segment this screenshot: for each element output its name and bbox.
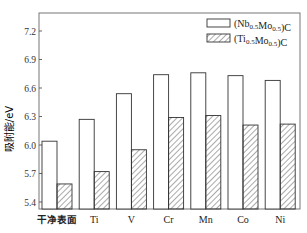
legend: (Nb0.5Mo0.5)C(Ti0.5Mo0.5)C [207, 18, 291, 49]
bar-nb-0 [42, 141, 57, 209]
bar-ti-1 [94, 172, 109, 209]
bar-ti-4 [206, 116, 221, 209]
x-category-label: Ti [90, 214, 99, 225]
y-tick-label: 6.6 [24, 84, 36, 94]
x-category-label: V [128, 214, 136, 225]
y-axis-label: 吸附能/eV [3, 106, 15, 153]
x-category-label: Cr [164, 214, 175, 225]
y-axis-title: 吸附能/eV [3, 106, 15, 153]
bar-nb-3 [154, 75, 169, 209]
x-category-label: 干净表面 [37, 214, 77, 225]
bar-nb-1 [79, 119, 94, 209]
bar-ti-0 [57, 184, 72, 209]
x-category-label: Mn [199, 214, 213, 225]
adsorption-energy-bar-chart: 5.45.76.06.36.66.97.2 干净表面TiVCrMnCoNi 吸附… [0, 0, 307, 233]
legend-swatch [207, 34, 230, 42]
legend-label: (Ti0.5Mo0.5)C [234, 33, 288, 49]
x-category-label: Ni [275, 214, 285, 225]
bar-nb-5 [228, 76, 243, 209]
y-tick-label: 5.7 [24, 169, 36, 179]
y-tick-label: 6.9 [24, 55, 36, 65]
bars [42, 73, 295, 209]
y-tick-label: 5.4 [24, 198, 36, 208]
bar-ti-6 [280, 124, 295, 209]
y-tick-label: 7.2 [24, 27, 36, 37]
legend-label: (Nb0.5Mo0.5)C [234, 18, 291, 34]
x-category-label: Co [237, 214, 249, 225]
x-axis-labels: 干净表面TiVCrMnCoNi [37, 214, 285, 225]
bar-nb-4 [191, 73, 206, 209]
bar-ti-3 [169, 117, 184, 209]
bar-nb-2 [116, 94, 131, 209]
y-tick-label: 6.0 [24, 141, 36, 151]
bar-ti-2 [131, 150, 146, 209]
legend-swatch [207, 19, 230, 27]
y-tick-label: 6.3 [24, 112, 36, 122]
bar-ti-5 [243, 125, 258, 209]
bar-nb-6 [265, 80, 280, 209]
